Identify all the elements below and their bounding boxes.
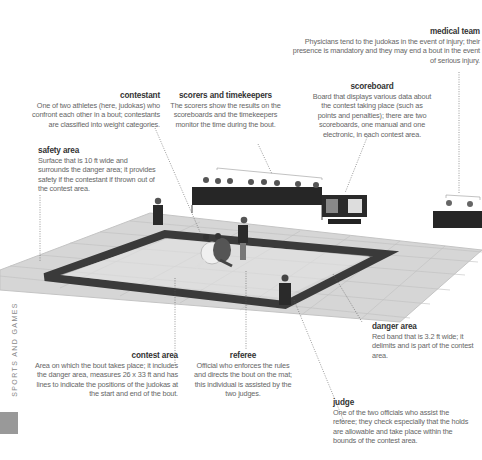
medical-team-text: Physicians tend to the judokas in the ev… (293, 37, 480, 65)
section-color-block (0, 412, 18, 434)
label-judge: judge One of the two officials who assis… (333, 398, 473, 446)
judge-title: judge (333, 398, 473, 408)
scoreboard-title: scoreboard (312, 82, 432, 92)
medical-team-title: medical team (290, 27, 480, 37)
medical-team-table (433, 195, 482, 228)
label-scoreboard: scoreboard Board that displays various d… (312, 82, 432, 139)
section-tab: SPORTS AND GAMES (6, 300, 20, 410)
danger-area-text: Red band that is 3.2 ft wide; it delimit… (372, 332, 473, 360)
scoreboard-device (322, 195, 367, 224)
label-referee: referee Official who enforces the rules … (192, 351, 294, 399)
label-scorers-timekeepers: scorers and timekeepers The scorers show… (163, 91, 288, 129)
contestant-title: contestant (32, 91, 160, 101)
label-contestant: contestant One of two athletes (here, ju… (32, 91, 160, 129)
referee-text: Official who enforces the rules and dire… (194, 361, 292, 398)
scoreboard-text: Board that displays various data about t… (313, 92, 431, 139)
judge-text: One of the two officials who assist the … (333, 408, 468, 445)
referee-title: referee (192, 351, 294, 361)
judge-figure-1 (153, 198, 163, 225)
scorers-text: The scorers show the results on the scor… (170, 101, 280, 129)
label-contest-area: contest area Area on which the bout take… (30, 351, 178, 399)
label-safety-area: safety area Surface that is 10 ft wide a… (38, 146, 156, 194)
contest-area-text: Area on which the bout takes place; it i… (35, 361, 178, 398)
contestant-text: One of two athletes (here, judokas) who … (32, 101, 160, 129)
scorers-title: scorers and timekeepers (163, 91, 288, 101)
safety-area-text: Surface that is 10 ft wide and surrounds… (38, 156, 156, 193)
danger-area-title: danger area (372, 322, 480, 332)
contest-area-title: contest area (30, 351, 178, 361)
label-danger-area: danger area Red band that is 3.2 ft wide… (372, 322, 480, 360)
label-medical-team: medical team Physicians tend to the judo… (290, 27, 480, 65)
section-tab-label: SPORTS AND GAMES (11, 300, 18, 400)
scorers-table (192, 168, 322, 220)
safety-area-title: safety area (38, 146, 156, 156)
